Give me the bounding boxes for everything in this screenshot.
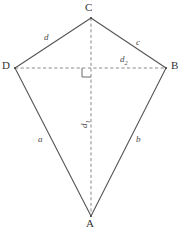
side-label-lower-left: a xyxy=(38,135,43,144)
kite-diagram: C D B A d c a b d2 d1 xyxy=(0,0,182,230)
diagonal-label-horizontal-subscript: 2 xyxy=(125,59,128,66)
vertex-dot-c xyxy=(90,17,92,19)
side-cd-line xyxy=(15,18,91,68)
side-label-upper-right: c xyxy=(136,38,140,47)
vertex-dot-d xyxy=(14,67,16,69)
vertex-label-b: B xyxy=(171,60,178,71)
vertex-label-c: C xyxy=(85,2,92,13)
vertex-label-a: A xyxy=(86,218,94,229)
side-da-line xyxy=(15,68,91,216)
diagonal-label-vertical-base: d xyxy=(79,124,89,129)
diagonal-label-vertical-subscript: 1 xyxy=(84,120,91,123)
side-label-lower-right: b xyxy=(136,135,141,144)
side-ba-line xyxy=(91,68,166,216)
right-angle-marker xyxy=(82,68,91,77)
kite-geometry-svg xyxy=(0,0,182,230)
diagonal-label-horizontal: d2 xyxy=(120,55,128,66)
side-label-upper-left: d xyxy=(44,33,49,42)
diagonal-label-vertical: d1 xyxy=(80,120,91,128)
vertex-label-d: D xyxy=(2,60,10,71)
side-cb-line xyxy=(91,18,166,68)
vertex-dot-b xyxy=(165,67,167,69)
